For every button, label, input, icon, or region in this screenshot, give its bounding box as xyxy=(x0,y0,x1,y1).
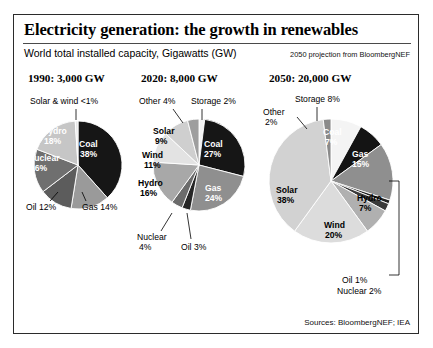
label-2020-oil: Oil 3% xyxy=(181,243,206,253)
leader-other xyxy=(173,109,183,123)
label-2050-hydro-value: 7% xyxy=(359,204,371,214)
label-2050-other-value: 2% xyxy=(265,118,277,128)
label-2020-coal-value: 27% xyxy=(204,150,221,160)
label-1990-nuclear-value: 16% xyxy=(30,164,47,174)
leader-oil xyxy=(187,213,191,239)
label-1990-solar-wind: Solar & wind <1% xyxy=(30,97,98,107)
label-1990-oil: Oil 12% xyxy=(26,203,56,213)
label-1990-gas: Gas 14% xyxy=(82,203,117,213)
label-2020-hydro-value: 16% xyxy=(140,189,157,199)
label-2020-solar-value: 9% xyxy=(155,137,167,147)
projection-note: 2050 projection from BloombergNEF xyxy=(290,50,410,59)
pie-title-2020: 2020: 8,000 GW xyxy=(141,72,218,84)
title-divider xyxy=(23,43,411,44)
label-1990-hydro-value: 18% xyxy=(44,137,61,147)
label-2050-solar-value: 38% xyxy=(277,196,294,206)
label-2020-gas-value: 24% xyxy=(205,194,222,204)
leader-nuclear xyxy=(161,213,172,231)
label-1990-coal-value: 38% xyxy=(80,150,97,160)
page-title: Electricity generation: the growth in re… xyxy=(24,20,410,40)
label-2050-gas-value: 15% xyxy=(352,160,369,170)
chart-subtitle: World total installed capacity, Gigawatt… xyxy=(24,47,237,59)
pie-title-1990: 1990: 3,000 GW xyxy=(28,72,105,84)
label-2020-storage: Storage 2% xyxy=(191,97,236,107)
label-2050-storage: Storage 8% xyxy=(295,95,340,105)
sources-note: Sources: BloombergNEF; IEA xyxy=(304,318,410,327)
label-2050-wind-value: 20% xyxy=(325,231,342,241)
pie-chart-2050: Storage 8% Other 2% Coal 7% Gas 15% Hydr… xyxy=(257,93,420,303)
label-2050-oil: Oil 1% xyxy=(342,276,367,286)
label-2020-wind-value: 11% xyxy=(144,161,161,171)
label-2020-nuclear-value: 4% xyxy=(139,243,151,253)
label-2020-other: Other 4% xyxy=(139,97,175,107)
chart-figure: Electricity generation: the growth in re… xyxy=(13,14,419,334)
label-2050-coal-value: 7% xyxy=(325,138,337,148)
label-2050-nuclear: Nuclear 2% xyxy=(337,287,381,297)
pie-title-2050: 2050: 20,000 GW xyxy=(269,72,351,84)
